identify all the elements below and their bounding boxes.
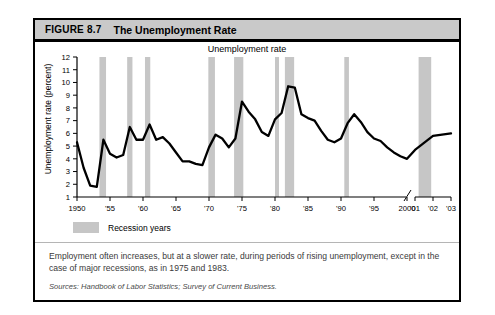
y-tick-label: 9 <box>66 91 70 100</box>
x-tick-label: '65 <box>171 204 181 213</box>
y-tick-label: 2 <box>66 180 70 189</box>
chart-plot-region: Unemployment rate Unemployment rate (per… <box>35 42 459 238</box>
figure-header: FIGURE 8.7 The Unemployment Rate <box>35 20 459 42</box>
unemployment-line-chart: 1234567891011121950'55'60'65'70'75'80'85… <box>35 42 459 238</box>
recession-band <box>419 57 432 197</box>
x-tick-label: '80 <box>270 204 280 213</box>
chart-legend: Recession years <box>73 222 171 233</box>
x-tick-label: '90 <box>336 204 346 213</box>
y-tick-label: 11 <box>62 66 70 75</box>
x-tick-label: '85 <box>303 204 313 213</box>
figure-container: FIGURE 8.7 The Unemployment Rate Unemplo… <box>33 18 461 302</box>
y-tick-label: 4 <box>66 155 70 164</box>
y-tick-label: 3 <box>66 167 70 176</box>
unemployment-rate-line <box>77 86 451 187</box>
figure-title: The Unemployment Rate <box>113 24 236 36</box>
recession-band <box>208 57 215 197</box>
figure-number: FIGURE 8.7 <box>45 24 101 35</box>
x-tick-label: '55 <box>105 204 115 213</box>
y-tick-label: 12 <box>62 53 70 62</box>
x-tick-label: '02 <box>428 204 438 213</box>
recession-band <box>285 57 294 197</box>
recession-legend-swatch <box>73 222 99 233</box>
caption-divider <box>35 242 459 243</box>
y-tick-label: 6 <box>66 129 70 138</box>
x-tick-label: '75 <box>237 204 247 213</box>
x-tick-label: '03 <box>446 204 456 213</box>
recession-band <box>275 57 279 197</box>
x-tick-label: '95 <box>369 204 379 213</box>
figure-caption: Employment often increases, but at a slo… <box>49 250 445 275</box>
x-tick-label: 1950 <box>69 204 86 213</box>
y-tick-label: 1 <box>66 193 70 202</box>
x-tick-label: '01 <box>410 204 420 213</box>
y-tick-label: 8 <box>66 104 70 113</box>
recession-band <box>234 57 243 197</box>
x-tick-label: '70 <box>204 204 214 213</box>
figure-sources: Sources: Handbook of Labor Statistics; S… <box>49 282 277 291</box>
y-tick-label: 7 <box>66 116 70 125</box>
y-tick-label: 10 <box>62 78 70 87</box>
y-tick-label: 5 <box>66 142 70 151</box>
x-tick-label: '60 <box>138 204 148 213</box>
recession-band <box>99 57 106 197</box>
recession-legend-label: Recession years <box>108 223 171 233</box>
